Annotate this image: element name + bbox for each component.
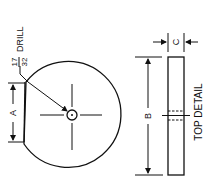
dimension-c: C: [153, 33, 198, 52]
dim-c-label: C: [171, 38, 181, 45]
dim-b-label: B: [143, 113, 153, 119]
dim-a-label: A: [8, 110, 18, 116]
drill-leader: [20, 66, 67, 111]
drill-label: DRILL: [15, 26, 25, 52]
technical-drawing: 17 32 DRILL A B C TOP DETAIL: [0, 0, 216, 193]
hole-center-dot: [71, 114, 73, 116]
drill-callout: 17 32 DRILL: [10, 26, 29, 67]
dimension-a: A: [8, 83, 25, 142]
drill-numerator: 17: [10, 57, 19, 66]
dimension-b: B: [135, 57, 163, 175]
side-view: [162, 57, 190, 175]
front-view: [20, 61, 121, 167]
view-label: TOP DETAIL: [193, 83, 204, 141]
drill-denominator: 32: [20, 57, 29, 66]
